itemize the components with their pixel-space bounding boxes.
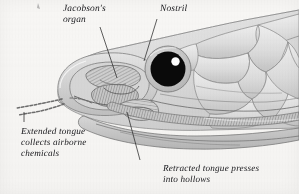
label-retracted-tongue-line1: Retracted tongue presses xyxy=(163,163,259,173)
label-jacobsons-organ-line1: Jacobson's xyxy=(63,4,106,14)
label-nostril-line1: Nostril xyxy=(160,4,187,14)
eye xyxy=(145,46,191,92)
scan-artifact xyxy=(37,3,40,9)
label-retracted-tongue: Retracted tongue pressesinto hollows xyxy=(163,163,259,185)
eye-highlight xyxy=(171,57,179,65)
label-extended-tongue-line3: chemicals xyxy=(21,148,59,158)
label-nostril: Nostril xyxy=(160,4,187,15)
eye-pupil xyxy=(151,52,186,87)
label-jacobsons-organ: Jacobson'sorgan xyxy=(63,4,106,25)
label-retracted-tongue-line2: into hollows xyxy=(163,174,210,184)
label-extended-tongue: Extended tonguecollects airbornechemical… xyxy=(21,126,87,160)
label-extended-tongue-line2: collects airborne xyxy=(21,137,87,147)
label-jacobsons-organ-line2: organ xyxy=(63,15,86,25)
label-extended-tongue-line1: Extended tongue xyxy=(21,126,85,136)
